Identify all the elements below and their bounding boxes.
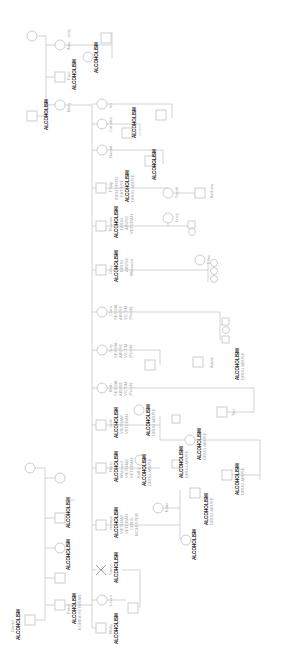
ellen-symbol	[195, 255, 205, 265]
jack-spouse-note-2: DRUG ABUSE	[151, 408, 156, 436]
peter-name: Peter	[66, 603, 71, 614]
thomas-symbol	[96, 221, 106, 231]
gary-note-4: Widowed	[129, 258, 134, 276]
beth-note-4: (Frank)	[128, 382, 133, 396]
sonja-deceased-symbol	[96, 565, 106, 575]
aaron-symbol	[193, 357, 203, 367]
candice-spouse-note: ALCOHOLISM	[132, 107, 137, 138]
laura-symbol	[97, 595, 107, 605]
aaron-name: Aaron	[209, 356, 214, 368]
jerry-symbol	[27, 31, 37, 41]
paul-symbol	[55, 72, 65, 82]
judy-spouse-symbol	[145, 360, 155, 370]
jerry-name: Jerry	[66, 28, 71, 38]
gary-symbol	[96, 265, 106, 275]
philip-name: Philip	[108, 181, 113, 192]
judy-symbol	[97, 345, 107, 355]
peter-sib3-symbol	[55, 573, 65, 583]
george-symbol	[96, 520, 106, 530]
jack-spouse-symbol	[134, 405, 144, 415]
gary-name: Gary	[108, 264, 113, 274]
peter-sib2-symbol	[55, 543, 65, 553]
george-name: George	[108, 515, 113, 530]
peter-note-2: KOREA VETERAN	[77, 595, 82, 630]
philip-symbol	[96, 183, 106, 193]
children: Ira Candice ALCOHOLISM Naomi ALCOHOLISM …	[92, 99, 260, 644]
jack-great-grandchild-symbol	[222, 470, 232, 480]
naomi-symbol	[97, 145, 107, 155]
jack-note-3: VETERAN	[124, 414, 129, 434]
thomas-name: Thomas	[108, 217, 113, 232]
andrew-symbol	[195, 188, 205, 198]
daniel-note: ALCOHOLISM	[16, 609, 21, 640]
amy-spouse-symbol	[101, 33, 111, 43]
paternal-family: ALCOHOLISM ALCOHOLISM Peter ALCOHOLISM K…	[10, 463, 92, 640]
genogram: Jerry Amy Paul ALCOHOLISM ALCOHOLISM Mar…	[0, 0, 290, 669]
clara-note-4: (Frank)	[128, 306, 133, 320]
jack-symbol	[96, 420, 106, 430]
ira-name: Ira	[108, 102, 113, 108]
thomas-note-4: VETERAN	[129, 214, 134, 234]
clara-child2-symbol	[223, 327, 230, 334]
paul-note: ALCOHOLISM	[72, 59, 77, 90]
kathy-note-2: DRUG ABUSE	[147, 458, 152, 486]
kathy-name: Kathy	[136, 466, 141, 478]
mary-spouse-note: ALCOHOLISM	[44, 99, 49, 130]
katie-spouse-symbol	[190, 488, 200, 498]
jack-child-note-2: DRUG ABUSE	[202, 432, 207, 460]
maternal-family: Jerry Amy Paul ALCOHOLISM ALCOHOLISM Mar…	[27, 28, 112, 130]
candice-symbol	[97, 119, 107, 129]
clara-child1-symbol	[222, 318, 229, 325]
paternal-aunt-symbol	[55, 473, 65, 483]
jack-name: Jack	[108, 418, 113, 428]
jack-grandchild-note-2: DRUG ABUSE	[240, 467, 245, 495]
wally-symbol	[96, 623, 106, 633]
kathy-spouse-note-2: DRUG ABUSE	[184, 450, 189, 478]
katie-child-symbol	[181, 535, 191, 545]
ellen-child2-symbol	[211, 268, 218, 275]
ira-spouse-symbol	[156, 110, 166, 120]
ellen-child1-symbol	[211, 260, 218, 267]
lucy-name: Lucy	[174, 212, 179, 222]
katie-child-note: ALCOHOLISM	[192, 529, 197, 560]
sarah-name: Sarah	[174, 186, 179, 198]
ira-symbol	[97, 99, 107, 109]
mary-father-symbol	[27, 111, 37, 121]
sonja-note: ALCOHOLISM	[114, 552, 119, 583]
sonja-name: Sonja	[108, 564, 113, 575]
mary-name: Mary	[66, 102, 71, 112]
lucy-symbol	[163, 213, 173, 223]
aaron-rel-note-2: DRUG ABUSE	[240, 352, 245, 380]
george-note-5: MOLESTER	[134, 513, 139, 536]
amy-spouse-note: ALCOHOLISM	[94, 42, 99, 73]
amy-symbol	[55, 40, 65, 50]
lucy-child2-symbol	[189, 229, 196, 236]
beth-symbol	[97, 383, 107, 393]
amy-child-symbol	[83, 52, 93, 62]
harry-symbol	[96, 463, 106, 473]
amy-name: Amy	[66, 41, 71, 50]
katie-spouse-note-2: DRUG ABUSE	[209, 497, 214, 525]
daniel-name: Daniel	[10, 620, 15, 632]
laura-spouse-symbol	[128, 603, 138, 613]
peter-sib1-note: ALCOHOLISM	[66, 497, 71, 528]
judy-note-4: (Frank)	[128, 344, 133, 358]
paternal-grandmother-symbol	[25, 463, 35, 473]
naomi-spouse-note: ALCOHOLISM	[152, 149, 157, 180]
andrew-name: Andrew	[209, 183, 214, 198]
tim-name: Tim	[231, 409, 236, 416]
paul-name: Paul	[66, 72, 71, 80]
naomi-name: Naomi	[108, 146, 113, 158]
wally-name: Wally	[108, 623, 113, 634]
harry-name: Harry	[108, 461, 113, 472]
katie-symbol	[153, 503, 163, 513]
ellen-child3-symbol	[211, 276, 218, 283]
peter-sib1-symbol	[55, 513, 65, 523]
wally-note: ALCOHOLISM	[114, 613, 119, 644]
katie-name: Katie	[164, 502, 169, 512]
clara-child3-symbol	[222, 336, 229, 343]
candice-spouse-symbol	[122, 128, 132, 138]
sarah-symbol	[163, 188, 173, 198]
lucy-child1-symbol	[188, 221, 195, 228]
jack-grandchild-symbol	[185, 435, 195, 445]
